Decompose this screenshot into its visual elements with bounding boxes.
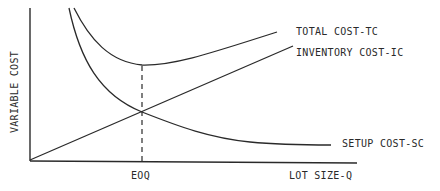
x-axis-label: LOT SIZE-Q — [289, 170, 352, 181]
setup-cost-curve — [69, 8, 331, 145]
eoq-chart: VARIABLE COST EOQ LOT SIZE-Q TOTAL COST-… — [0, 0, 440, 191]
x-axis — [30, 161, 357, 163]
total-cost-label: TOTAL COST-TC — [296, 26, 378, 37]
setup-cost-label: SETUP COST-SC — [342, 138, 424, 149]
total-cost-curve — [74, 8, 277, 65]
inventory-cost-label: INVENTORY COST-IC — [296, 47, 403, 58]
y-axis-label: VARIABLE COST — [9, 51, 20, 133]
eoq-tick-label: EOQ — [131, 170, 150, 181]
